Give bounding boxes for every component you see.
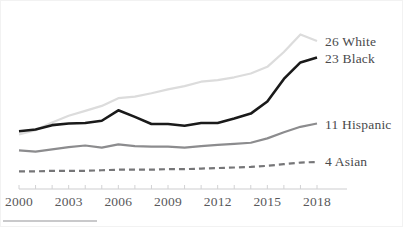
series-line-white xyxy=(19,34,317,134)
bottom-rule xyxy=(3,220,97,222)
x-tick-label-2009: 2009 xyxy=(154,194,182,210)
x-tick-label-2012: 2012 xyxy=(204,194,232,210)
x-tick-label-2015: 2015 xyxy=(253,194,281,210)
x-tick-label-2003: 2003 xyxy=(55,194,83,210)
series-line-asian xyxy=(19,162,317,171)
series-label-hispanic: 11 Hispanic xyxy=(325,117,392,133)
series-line-hispanic xyxy=(19,124,317,152)
x-tick-label-2000: 2000 xyxy=(5,194,33,210)
x-axis xyxy=(19,185,347,189)
series-label-asian: 4 Asian xyxy=(325,154,367,170)
series-lines xyxy=(19,34,317,171)
chart-container: 2000200320062009201220152018 26 White23 … xyxy=(0,0,403,227)
series-label-black: 23 Black xyxy=(325,51,375,67)
x-tick-label-2006: 2006 xyxy=(104,194,132,210)
series-label-white: 26 White xyxy=(325,34,376,50)
series-line-black xyxy=(19,58,317,132)
x-tick-label-2018: 2018 xyxy=(303,194,331,210)
